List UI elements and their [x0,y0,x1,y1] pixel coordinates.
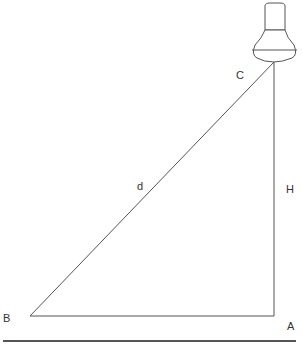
label-h: H [286,183,294,195]
label-c: C [236,69,244,81]
hypotenuse-d [30,62,274,316]
triangle-abc [30,62,274,316]
label-d: d [137,180,143,192]
label-b: B [3,312,10,324]
geometry-diagram: C d H B A [0,0,303,347]
label-a: A [287,320,295,332]
lamp-bulb-icon [252,3,297,62]
